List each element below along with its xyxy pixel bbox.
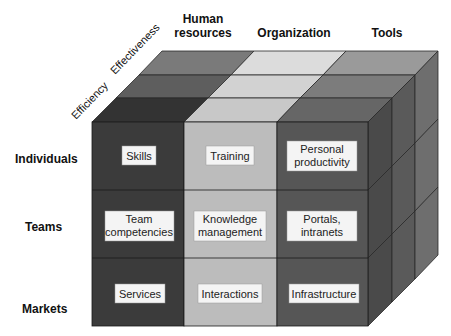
cell-portals-intranets: Portals, intranets bbox=[287, 211, 357, 241]
cell-text: Knowledge bbox=[203, 213, 257, 225]
row-headers: Individuals Teams Markets bbox=[15, 152, 78, 316]
row-header-markets: Markets bbox=[22, 302, 68, 316]
cell-infrastructure: Infrastructure bbox=[289, 284, 359, 303]
row-header-teams: Teams bbox=[25, 220, 62, 234]
cell-team-competencies: Team competencies bbox=[105, 211, 174, 241]
cell-text: Services bbox=[119, 288, 162, 300]
cell-training: Training bbox=[206, 146, 254, 165]
cell-services: Services bbox=[115, 284, 165, 303]
cell-text: Team bbox=[126, 213, 153, 225]
column-header-organization: Organization bbox=[257, 26, 330, 40]
cell-text: competencies bbox=[105, 226, 173, 238]
cell-knowledge-management: Knowledge management bbox=[194, 211, 266, 241]
column-header-human-resources: Human bbox=[183, 12, 224, 26]
column-header-human-resources: resources bbox=[174, 26, 232, 40]
cell-text: Training bbox=[210, 150, 249, 162]
column-headers: Human resources Organization Tools bbox=[174, 12, 403, 40]
cube-diagram: Skills Training Personal productivity Te… bbox=[0, 0, 451, 336]
cell-personal-productivity: Personal productivity bbox=[287, 141, 357, 171]
cell-text: management bbox=[198, 226, 262, 238]
cell-text: intranets bbox=[301, 226, 344, 238]
column-header-tools: Tools bbox=[371, 26, 402, 40]
row-header-individuals: Individuals bbox=[15, 152, 78, 166]
cell-text: Skills bbox=[126, 150, 152, 162]
cell-text: Infrastructure bbox=[292, 288, 357, 300]
cell-text: productivity bbox=[294, 156, 350, 168]
cell-text: Portals, bbox=[303, 213, 340, 225]
cell-skills: Skills bbox=[122, 146, 156, 165]
cell-interactions: Interactions bbox=[198, 284, 262, 303]
cell-text: Personal bbox=[300, 143, 343, 155]
cell-text: Interactions bbox=[202, 288, 259, 300]
